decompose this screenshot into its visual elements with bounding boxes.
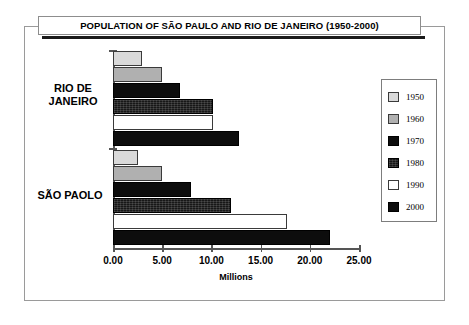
- bar-rio-2000: [113, 131, 239, 146]
- legend-swatch-1950-icon: [388, 92, 399, 102]
- x-axis-tick: [359, 245, 361, 252]
- x-axis-tick: [261, 245, 263, 252]
- bar-sao-paolo-1970: [113, 182, 191, 197]
- legend-label-1980: 1980: [406, 158, 424, 168]
- x-axis-tick: [162, 245, 164, 252]
- x-axis-line: [113, 248, 359, 250]
- legend-item-2000: 2000: [388, 196, 436, 218]
- legend-item-1980: 1980: [388, 152, 436, 174]
- bar-rio-1950: [113, 51, 142, 66]
- legend-label-1950: 1950: [406, 92, 424, 102]
- x-tick-label-25: 25.00: [337, 255, 381, 266]
- chart-legend: 1950 1960 1970 1980 1990 2000: [381, 79, 437, 222]
- legend-swatch-1960-icon: [388, 114, 399, 124]
- chart-figure: POPULATION OF SÃO PAULO AND RIO DE JANEI…: [0, 0, 469, 325]
- legend-item-1990: 1990: [388, 174, 436, 196]
- x-tick-label-15: 15.00: [239, 255, 283, 266]
- legend-label-1970: 1970: [406, 136, 424, 146]
- legend-item-1970: 1970: [388, 130, 436, 152]
- bar-rio-1970: [113, 83, 180, 98]
- bar-sao-paolo-1990: [113, 214, 287, 229]
- legend-label-1960: 1960: [406, 114, 424, 124]
- legend-swatch-1970-icon: [388, 136, 399, 146]
- bar-rio-1960: [113, 67, 162, 82]
- bar-sao-paolo-1950: [113, 150, 138, 165]
- bar-rio-1990: [113, 115, 213, 130]
- x-axis-tick: [211, 245, 213, 252]
- x-axis-tick: [310, 245, 312, 252]
- legend-label-1990: 1990: [406, 180, 424, 190]
- legend-swatch-1980-icon: [388, 158, 399, 168]
- chart-title: POPULATION OF SÃO PAULO AND RIO DE JANEI…: [39, 17, 420, 34]
- legend-item-1960: 1960: [388, 108, 436, 130]
- legend-swatch-2000-icon: [388, 202, 399, 212]
- x-axis-tick: [113, 245, 115, 252]
- legend-swatch-1990-icon: [388, 180, 399, 190]
- x-axis-title: Millions: [113, 272, 359, 282]
- chart-title-plate: POPULATION OF SÃO PAULO AND RIO DE JANEI…: [38, 16, 421, 35]
- legend-item-1950: 1950: [388, 86, 436, 108]
- x-tick-label-0: 0.00: [91, 255, 135, 266]
- category-label-rio-de-janeiro: RIO DE JANEIRO: [36, 82, 110, 108]
- legend-label-2000: 2000: [406, 202, 424, 212]
- category-label-sao-paolo: SÃO PAOLO: [30, 189, 110, 202]
- bar-sao-paolo-1960: [113, 166, 162, 181]
- x-tick-label-10: 10.00: [189, 255, 233, 266]
- x-tick-label-5: 5.00: [140, 255, 184, 266]
- bar-sao-paolo-2000: [113, 230, 330, 245]
- x-tick-label-20: 20.00: [288, 255, 332, 266]
- bar-rio-1980: [113, 99, 213, 114]
- bar-sao-paolo-1980: [113, 198, 231, 213]
